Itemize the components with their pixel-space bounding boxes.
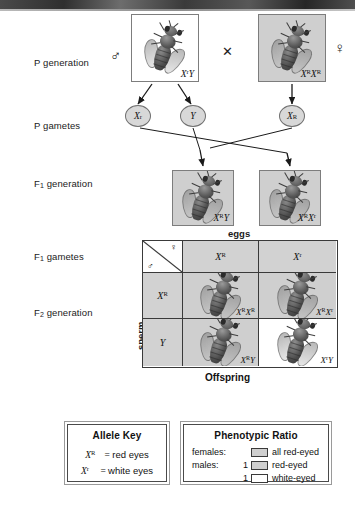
p-gamete-xr-dominant: XR: [279, 105, 305, 127]
p-generation-male-box: XrY: [131, 14, 199, 82]
row-label-p-generation: P generation: [34, 57, 89, 68]
f1-female-genotype: XRXr: [298, 212, 316, 223]
row-label-f1-generation: F1 generation: [34, 178, 93, 189]
punnett-cell-genotype: XRY: [240, 355, 255, 365]
punnett-cell-XRY: XRY: [183, 319, 259, 366]
eggs-axis-label: eggs: [228, 228, 250, 239]
row-label-f1-gametes: F1 gametes: [34, 251, 84, 262]
swatch-red-eyed-icon: [251, 448, 268, 457]
allele-key-box: Allele Key XR = red eyes Xr = white eyes: [64, 421, 170, 485]
punnett-col-header-XR: XR: [183, 241, 259, 273]
corner-female-symbol: ♀: [170, 242, 177, 252]
corner-male-symbol: ♂: [147, 261, 154, 271]
swatch-white-eyed-icon: [251, 474, 268, 483]
punnett-cell-genotype: XRXR: [236, 307, 255, 317]
row-label-f2-generation: F2 generation: [34, 307, 93, 318]
p-generation-female-box: XRXR: [258, 14, 326, 82]
p-generation-male-genotype: XrY: [181, 68, 194, 79]
punnett-cell-XRXR: XRXR: [183, 273, 259, 319]
punnett-row-header-Y: Y: [143, 319, 183, 366]
punnett-row-header-XR: XR: [143, 273, 183, 319]
row-label-p-generation-text: P generation: [34, 57, 89, 68]
p-gamete-y: Y: [180, 105, 206, 127]
punnett-cell-XRXr: XRXr: [259, 273, 336, 319]
f1-male-genotype: XRY: [214, 212, 229, 223]
phenotypic-ratio-row-females: females: all red-eyed: [192, 446, 328, 459]
allele-key-line-recessive: Xr = white eyes: [81, 462, 153, 478]
male-symbol-p-generation: ♂: [110, 48, 121, 63]
cross-symbol: ✕: [222, 44, 233, 59]
scan-artifact-band: [0, 0, 355, 9]
punnett-cell-genotype: XrY: [320, 355, 333, 365]
row-label-p-gametes: P gametes: [34, 120, 80, 131]
punnett-square: ♀ ♂ XR Xr XR Y XRXR XRX: [142, 240, 338, 368]
phenotypic-ratio-box: Phenotypic Ratio females: all red-eyed m…: [180, 421, 332, 485]
offspring-label: Offspring: [205, 372, 250, 383]
f1-female-box: XRXr: [259, 170, 321, 226]
swatch-red-eyed-icon: [251, 461, 268, 470]
phenotypic-ratio-row-males-red: males: 1 red-eyed: [192, 459, 328, 472]
row-label-p-gametes-text: P gametes: [34, 120, 80, 131]
phenotypic-ratio-title: Phenotypic Ratio: [214, 430, 297, 441]
allele-key-title: Allele Key: [93, 430, 142, 441]
punnett-col-header-Xr: Xr: [259, 241, 336, 273]
f1-male-box: XRY: [172, 170, 234, 226]
punnett-cell-XrY: XrY: [259, 319, 336, 366]
punnett-cell-genotype: XRXr: [316, 307, 333, 317]
allele-key-line-dominant: XR = red eyes: [85, 446, 149, 462]
phenotypic-ratio-row-males-white: 1 white-eyed: [192, 472, 328, 485]
p-generation-female-genotype: XRXR: [301, 68, 321, 79]
female-symbol-p-generation: ♀: [334, 40, 345, 55]
p-gamete-xr-recessive: Xr: [125, 105, 151, 127]
punnett-corner-cell: ♀ ♂: [143, 241, 183, 273]
